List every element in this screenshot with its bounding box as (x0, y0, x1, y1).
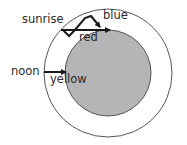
yellow-label: yellow (50, 74, 87, 86)
noon-label: noon (11, 66, 40, 78)
sunlight-diagram: sunrise blue red noon yellow (0, 0, 187, 145)
blue-label: blue (103, 10, 128, 22)
sunrise-label: sunrise (22, 14, 64, 26)
red-label: red (79, 32, 98, 44)
